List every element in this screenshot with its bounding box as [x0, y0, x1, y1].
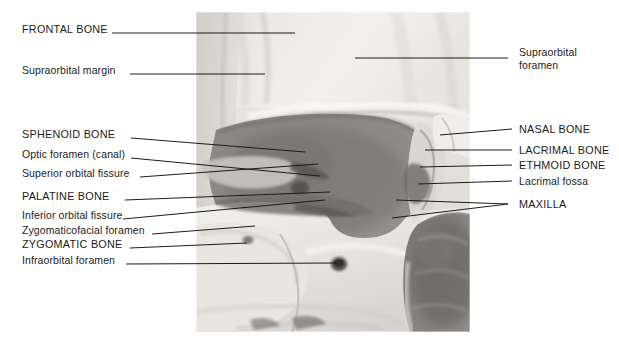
label-sphenoid-bone: SPHENOID BONE [22, 128, 115, 140]
label-optic-foramen-canal: Optic foramen (canal) [22, 148, 125, 160]
label-palatine-bone: PALATINE BONE [22, 190, 109, 202]
label-supraorbital-margin: Supraorbital margin [22, 64, 116, 76]
label-nasal-bone: NASAL BONE [519, 123, 590, 135]
figure-root: FRONTAL BONE Supraorbital margin SPHENOI… [0, 0, 619, 351]
label-zygomaticofacial-foramen: Zygomaticofacial foramen [22, 224, 145, 236]
label-supraorbital-foramen-line1: Supraorbital [519, 46, 577, 59]
label-inferior-orbital-fissure: Inferior orbital fissure [22, 209, 122, 221]
label-superior-orbital-fissure: Superior orbital fissure [22, 167, 129, 179]
label-lacrimal-bone: LACRIMAL BONE [519, 144, 609, 156]
label-infraorbital-foramen: Infraorbital foramen [22, 254, 115, 266]
label-frontal-bone: FRONTAL BONE [22, 23, 108, 35]
skull-photo-render [196, 12, 470, 332]
label-lacrimal-fossa: Lacrimal fossa [519, 175, 588, 187]
label-ethmoid-bone: ETHMOID BONE [519, 159, 605, 171]
label-zygomatic-bone: ZYGOMATIC BONE [22, 238, 122, 250]
label-supraorbital-foramen-line2: foramen [519, 59, 577, 72]
label-supraorbital-foramen: Supraorbital foramen [519, 46, 577, 72]
label-maxilla: MAXILLA [519, 198, 566, 210]
skull-photograph [196, 12, 470, 332]
